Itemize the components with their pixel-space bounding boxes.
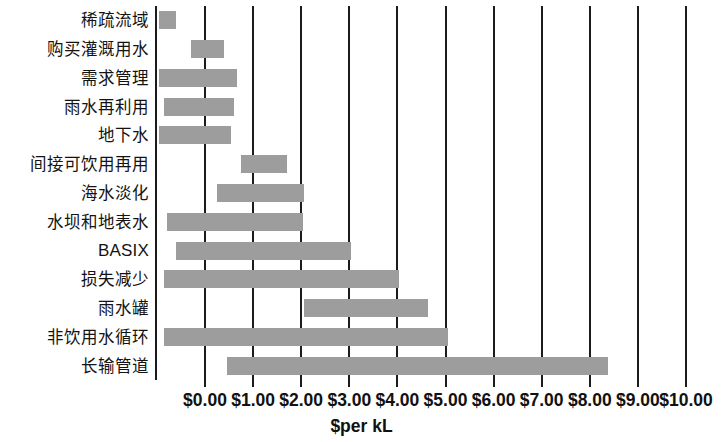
category-label: 需求管理 [81, 65, 149, 91]
bar-长输管道 [227, 357, 607, 375]
x-tick-label: $5.00 [424, 390, 468, 411]
category-label: 雨水罐 [98, 295, 149, 321]
category-label: BASIX [98, 238, 149, 264]
bar-地下水 [159, 126, 231, 144]
category-label: 间接可饮用再用 [30, 151, 149, 177]
x-axis-tick [541, 380, 543, 387]
horizontal-range-bar-chart: 稀疏流域购买灌溉用水需求管理雨水再利用地下水间接可饮用再用海水淡化水坝和地表水B… [0, 0, 723, 442]
gridline [348, 6, 350, 380]
bar-雨水再利用 [164, 98, 234, 116]
x-tick-label: $0.00 [183, 390, 227, 411]
x-axis-tick [493, 380, 495, 387]
category-label: 非饮用水循环 [47, 324, 149, 350]
gridline [396, 6, 398, 380]
x-tick-label: $8.00 [568, 390, 612, 411]
bar-稀疏流域 [159, 11, 176, 29]
gridline [637, 6, 639, 380]
bar-非饮用水循环 [164, 328, 449, 346]
bar-BASIX [176, 242, 351, 260]
bar-损失减少 [164, 270, 400, 288]
x-axis-tick [348, 380, 350, 387]
x-axis-tick [637, 380, 639, 387]
x-axis-tick-labels: $0.00$1.00$2.00$3.00$4.00$5.00$6.00$7.00… [0, 390, 723, 414]
x-tick-label: $2.00 [279, 390, 323, 411]
axis-spine [155, 6, 157, 380]
category-label: 损失减少 [81, 266, 149, 292]
x-axis-title: $per kL [0, 416, 723, 437]
category-label: 稀疏流域 [81, 7, 149, 33]
x-axis-tick [685, 380, 687, 387]
x-tick-label: $4.00 [375, 390, 419, 411]
bar-水坝和地表水 [167, 213, 304, 231]
category-axis-labels: 稀疏流域购买灌溉用水需求管理雨水再利用地下水间接可饮用再用海水淡化水坝和地表水B… [0, 6, 153, 380]
x-axis-tick [589, 380, 591, 387]
bar-需求管理 [159, 69, 236, 87]
gridline [541, 6, 543, 380]
gridline [204, 6, 206, 380]
x-axis-tick [445, 380, 447, 387]
bar-购买灌溉用水 [191, 40, 225, 58]
x-tick-label: $1.00 [231, 390, 275, 411]
bar-海水淡化 [217, 184, 304, 202]
x-tick-label: $3.00 [327, 390, 371, 411]
category-label: 水坝和地表水 [47, 209, 149, 235]
category-label: 海水淡化 [81, 180, 149, 206]
gridline [685, 6, 687, 380]
bar-雨水罐 [304, 299, 428, 317]
x-axis-tick [300, 380, 302, 387]
bar-间接可饮用再用 [241, 155, 287, 173]
plot-area [155, 6, 688, 380]
gridline [445, 6, 447, 380]
x-tick-label: $6.00 [472, 390, 516, 411]
x-axis-tick [204, 380, 206, 387]
category-label: 雨水再利用 [64, 94, 149, 120]
x-tick-label: $7.00 [520, 390, 564, 411]
gridline [493, 6, 495, 380]
x-tick-label: $9.00 [616, 390, 660, 411]
gridline [589, 6, 591, 380]
category-label: 长输管道 [81, 353, 149, 379]
x-tick-label: $10.00 [659, 390, 713, 411]
category-label: 购买灌溉用水 [47, 36, 149, 62]
x-axis-tick [252, 380, 254, 387]
x-axis-tick [396, 380, 398, 387]
category-label: 地下水 [98, 122, 149, 148]
